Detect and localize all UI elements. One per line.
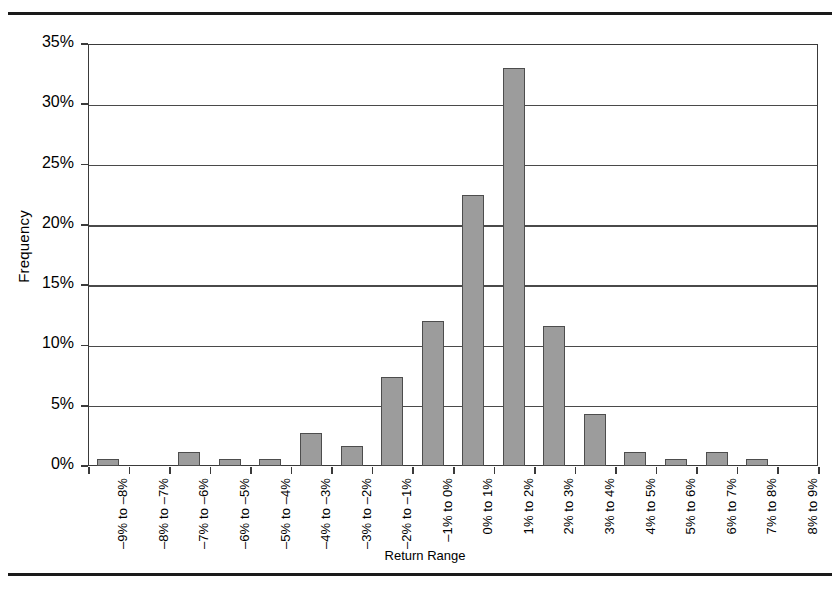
y-tick-mark xyxy=(81,224,88,226)
x-tick-mark xyxy=(210,467,212,474)
y-tick-mark xyxy=(81,103,88,105)
x-category-label: –6% to –5% xyxy=(237,478,252,590)
x-tick-mark xyxy=(494,467,496,474)
y-tick-mark xyxy=(81,284,88,286)
gridline xyxy=(89,105,817,106)
x-category-label: –2% to –1% xyxy=(399,478,414,590)
x-tick-mark xyxy=(696,467,698,474)
x-tick-mark xyxy=(412,467,414,474)
x-tick-mark xyxy=(372,467,374,474)
x-tick-mark xyxy=(818,467,820,474)
x-category-label: 3% to 4% xyxy=(602,478,617,590)
x-category-label: 4% to 5% xyxy=(643,478,658,590)
x-category-label: 2% to 3% xyxy=(561,478,576,590)
top-divider-rule xyxy=(8,12,832,15)
gridline xyxy=(89,225,817,226)
y-tick-label: 25% xyxy=(0,154,74,172)
y-tick-mark xyxy=(81,345,88,347)
x-tick-mark xyxy=(575,467,577,474)
plot-area xyxy=(88,44,818,466)
x-category-label: 8% to 9% xyxy=(805,478,820,590)
x-category-label: –5% to –4% xyxy=(278,478,293,590)
y-tick-label: 15% xyxy=(0,274,74,292)
y-tick-label: 30% xyxy=(0,93,74,111)
x-tick-mark xyxy=(129,467,131,474)
y-tick-mark xyxy=(81,43,88,45)
y-tick-mark xyxy=(81,405,88,407)
y-tick-label: 35% xyxy=(0,33,74,51)
y-tick-label: 10% xyxy=(0,334,74,352)
x-category-label: 6% to 7% xyxy=(724,478,739,590)
x-axis-title: Return Range xyxy=(330,548,520,563)
x-category-label: –3% to –2% xyxy=(359,478,374,590)
x-category-label: –7% to –6% xyxy=(196,478,211,590)
x-category-label: –8% to –7% xyxy=(156,478,171,590)
histogram-figure: Frequency 35%30%25%20%15%10%5%0% –9% to … xyxy=(0,0,840,590)
y-tick-label: 5% xyxy=(0,395,74,413)
x-category-label: 5% to 6% xyxy=(683,478,698,590)
x-tick-mark xyxy=(331,467,333,474)
x-tick-mark xyxy=(291,467,293,474)
gridline xyxy=(89,346,817,347)
x-tick-mark xyxy=(737,467,739,474)
bottom-divider-rule xyxy=(8,573,832,576)
x-category-label: –1% to 0% xyxy=(440,478,455,590)
y-tick-label: 0% xyxy=(0,455,74,473)
y-axis-title: Frequency xyxy=(15,177,32,317)
y-tick-label: 20% xyxy=(0,214,74,232)
x-category-label: 1% to 2% xyxy=(521,478,536,590)
x-tick-mark xyxy=(777,467,779,474)
x-tick-mark xyxy=(169,467,171,474)
gridline xyxy=(89,285,817,286)
y-tick-mark xyxy=(81,465,88,467)
x-tick-mark xyxy=(656,467,658,474)
x-tick-mark xyxy=(250,467,252,474)
x-category-label: –9% to –8% xyxy=(115,478,130,590)
x-tick-mark xyxy=(88,467,90,474)
x-category-label: –4% to –3% xyxy=(318,478,333,590)
y-tick-mark xyxy=(81,164,88,166)
gridline xyxy=(89,406,817,407)
x-tick-mark xyxy=(453,467,455,474)
x-tick-mark xyxy=(534,467,536,474)
x-category-label: 7% to 8% xyxy=(764,478,779,590)
x-category-label: 0% to 1% xyxy=(480,478,495,590)
x-tick-mark xyxy=(615,467,617,474)
gridline xyxy=(89,165,817,166)
